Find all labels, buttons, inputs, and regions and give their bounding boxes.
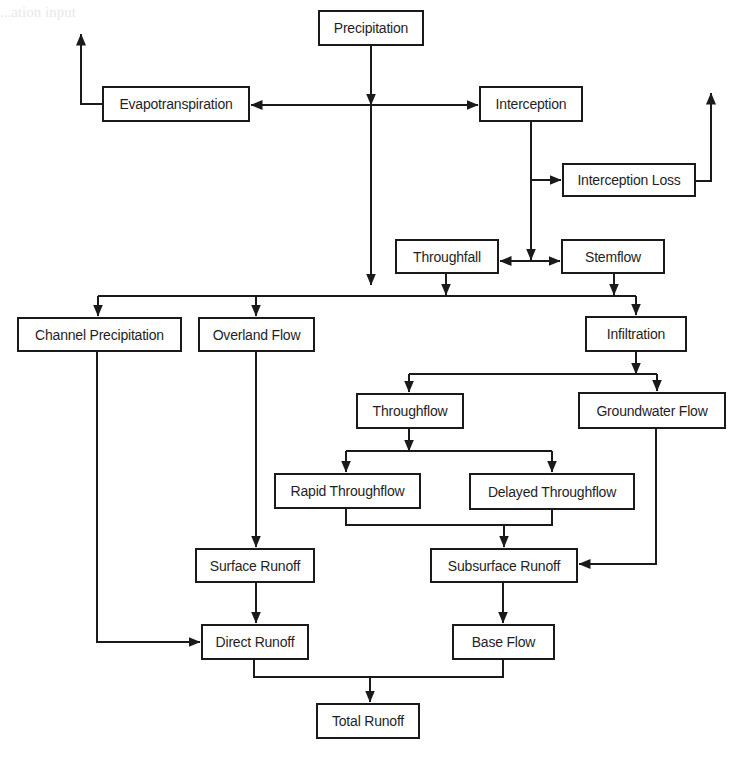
- node-rapid-throughflow: Rapid Throughflow: [274, 473, 421, 509]
- node-groundwater-flow: Groundwater Flow: [578, 392, 726, 429]
- node-overland-flow: Overland Flow: [198, 317, 315, 352]
- node-precipitation: Precipitation: [318, 10, 424, 46]
- node-label: Interception Loss: [577, 172, 680, 188]
- node-base-flow: Base Flow: [452, 624, 555, 660]
- node-surface-runoff: Surface Runoff: [195, 548, 315, 583]
- node-subsurface-runoff: Subsurface Runoff: [430, 548, 578, 583]
- node-infiltration: Infiltration: [585, 316, 687, 352]
- node-label: Direct Runoff: [216, 634, 295, 650]
- node-evapotranspiration: Evapotranspiration: [102, 86, 250, 122]
- node-label: Groundwater Flow: [596, 403, 707, 419]
- node-label: Subsurface Runoff: [448, 558, 560, 574]
- node-direct-runoff: Direct Runoff: [201, 624, 309, 660]
- edge-runoff-merge-line: [254, 660, 503, 677]
- node-label: Total Runoff: [332, 713, 404, 729]
- edge-channel-to-direct-runoff: [97, 352, 200, 642]
- node-label: Overland Flow: [213, 327, 301, 343]
- edge-throughflow-merge-line: [346, 509, 552, 525]
- node-stemflow: Stemflow: [561, 239, 665, 274]
- node-label: Infiltration: [607, 326, 665, 342]
- node-label: Channel Precipitation: [35, 327, 164, 343]
- node-delayed-throughflow: Delayed Throughflow: [469, 473, 635, 510]
- node-label: Surface Runoff: [210, 558, 300, 574]
- edge-interception-loss-to-atmosphere: [696, 93, 711, 181]
- node-label: Stemflow: [585, 249, 641, 265]
- node-label: Throughfall: [413, 249, 481, 265]
- node-total-runoff: Total Runoff: [316, 703, 420, 739]
- node-label: Precipitation: [334, 20, 408, 36]
- node-label: Evapotranspiration: [119, 96, 232, 112]
- node-channel-precipitation: Channel Precipitation: [17, 317, 182, 352]
- hydrology-flowchart: ...ation input: [0, 0, 737, 757]
- node-throughfall: Throughfall: [395, 239, 499, 274]
- node-interception-loss: Interception Loss: [562, 163, 696, 197]
- node-throughflow: Throughflow: [356, 393, 464, 429]
- node-interception: Interception: [479, 86, 583, 122]
- node-label: Throughflow: [373, 403, 448, 419]
- node-label: Interception: [496, 96, 567, 112]
- node-label: Rapid Throughflow: [291, 483, 405, 499]
- edge-evapotranspiration-to-atmosphere: [81, 34, 102, 104]
- node-label: Delayed Throughflow: [488, 484, 616, 500]
- node-label: Base Flow: [472, 634, 536, 650]
